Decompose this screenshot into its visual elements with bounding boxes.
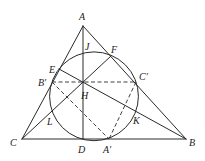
label-point-k: K [132, 115, 141, 126]
label-point-a: A [78, 11, 86, 22]
label-point-b-prime: B′ [38, 77, 47, 88]
label-point-j: J [85, 41, 90, 52]
label-point-c: C [10, 137, 17, 148]
label-point-e: E [48, 64, 55, 75]
label-point-d: D [77, 144, 86, 155]
segment-c-f [22, 56, 111, 139]
label-point-l: L [46, 116, 53, 127]
point-labels: ABCDEFHJKLA′B′C′ [10, 11, 195, 155]
nine-point-circle-diagram: ABCDEFHJKLA′B′C′ [0, 0, 205, 161]
segment-b-e [59, 69, 186, 139]
nine-point-circle [50, 52, 139, 141]
label-point-a-prime: A′ [102, 144, 112, 155]
label-point-c-prime: C′ [139, 71, 149, 82]
label-point-f: F [110, 44, 118, 55]
dashed-lines [52, 82, 136, 139]
label-point-h: H [80, 90, 89, 101]
label-point-b: B [189, 137, 195, 148]
